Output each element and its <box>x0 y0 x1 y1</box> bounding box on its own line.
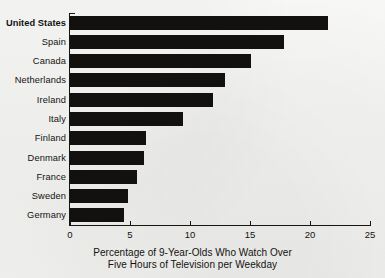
x-axis-tick-label: 10 <box>185 229 196 240</box>
category-label: Finland <box>0 133 66 143</box>
x-axis-tick <box>310 221 311 226</box>
x-axis-label: Percentage of 9-Year-Olds Who Watch Over… <box>0 247 385 270</box>
category-label: Italy <box>0 114 66 124</box>
bar <box>70 189 128 203</box>
bar <box>70 35 284 49</box>
bar <box>70 131 146 145</box>
category-label: Canada <box>0 56 66 66</box>
x-axis-label-line-2: Five Hours of Television per Weekday <box>0 259 385 271</box>
x-axis-tick <box>370 221 371 226</box>
x-axis-tick-label: 20 <box>305 229 316 240</box>
y-axis-top-tick <box>69 13 75 14</box>
x-axis-tick-label: 15 <box>245 229 256 240</box>
bar <box>70 16 328 30</box>
bar <box>70 208 124 222</box>
x-axis-tick-label: 0 <box>67 229 72 240</box>
bar <box>70 73 225 87</box>
category-label: United States <box>0 18 66 28</box>
category-label: Spain <box>0 37 66 47</box>
category-label: Netherlands <box>0 75 66 85</box>
category-label: Germany <box>0 210 66 220</box>
plot-area: 0510152025 <box>70 13 370 225</box>
bar-chart: United StatesSpainCanadaNetherlandsIrela… <box>0 0 385 278</box>
x-axis-tick-label: 5 <box>127 229 132 240</box>
x-axis-label-line-1: Percentage of 9-Year-Olds Who Watch Over <box>0 247 385 259</box>
bar <box>70 170 137 184</box>
category-label: Sweden <box>0 191 66 201</box>
category-label: Ireland <box>0 95 66 105</box>
category-label: Denmark <box>0 153 66 163</box>
category-label: France <box>0 172 66 182</box>
bar <box>70 54 251 68</box>
x-axis-tick <box>190 221 191 226</box>
bar <box>70 93 213 107</box>
bar <box>70 151 144 165</box>
x-axis-line <box>69 225 371 226</box>
x-axis-tick-label: 25 <box>365 229 376 240</box>
bar <box>70 112 183 126</box>
x-axis-tick <box>250 221 251 226</box>
x-axis-tick <box>130 221 131 226</box>
x-axis-tick <box>70 221 71 226</box>
